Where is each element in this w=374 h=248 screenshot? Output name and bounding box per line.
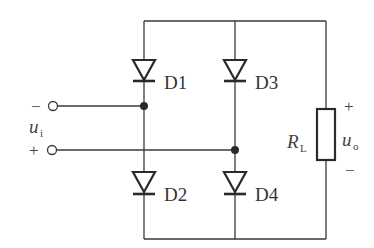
- output-voltage-subscript: o: [353, 140, 359, 152]
- diode-d3-label: D3: [255, 72, 278, 93]
- diode-d1-triangle-icon: [133, 60, 155, 80]
- diode-d4-label: D4: [255, 184, 279, 205]
- wires: [57, 21, 326, 239]
- diode-d3: [224, 60, 246, 81]
- diode-d2-label: D2: [164, 184, 187, 205]
- diode-d3-triangle-icon: [224, 60, 246, 80]
- output-plus-sign: +: [344, 97, 354, 116]
- diode-d4: [224, 172, 246, 194]
- diode-d2: [133, 172, 155, 194]
- load-resistor-subscript: L: [300, 142, 307, 154]
- input-voltage-label: u: [29, 116, 39, 137]
- junction-dot-middle: [231, 146, 239, 154]
- input-voltage-subscript: i: [40, 127, 43, 139]
- input-minus-sign: −: [31, 97, 41, 116]
- load-resistor-icon: [317, 109, 335, 160]
- diode-d4-triangle-icon: [224, 172, 246, 192]
- output-minus-sign: −: [345, 161, 355, 180]
- input-terminal-minus: [49, 102, 58, 111]
- diode-d2-triangle-icon: [133, 172, 155, 192]
- input-terminal-plus: [48, 146, 57, 155]
- diode-d1: [133, 60, 155, 81]
- output-voltage-label: u: [342, 129, 352, 150]
- diode-d1-label: D1: [164, 72, 187, 93]
- junction-dot-left: [140, 102, 148, 110]
- load-resistor-label: R: [286, 131, 299, 152]
- bridge-rectifier-diagram: D1 D3 D2 D4 − + u i R L u o + −: [0, 0, 374, 248]
- input-plus-sign: +: [29, 141, 39, 160]
